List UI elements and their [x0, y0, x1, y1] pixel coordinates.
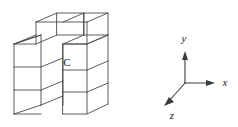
figure-canvas: C y x z [0, 0, 238, 127]
cube-cell-label-c: C [63, 56, 70, 68]
y-axis-arrowhead [182, 51, 188, 60]
x-axis-label: x [222, 76, 228, 88]
y-axis-label: y [181, 32, 187, 44]
z-axis-arrowhead [164, 97, 174, 106]
cube-block-drawing: C y x z [0, 0, 238, 127]
face-fill-top [36, 6, 108, 21]
z-axis-line [169, 83, 185, 101]
face-fill-body [14, 37, 108, 114]
coordinate-axes: y x z [164, 32, 228, 121]
x-axis-arrowhead [206, 80, 215, 86]
z-axis-label: z [169, 109, 175, 121]
